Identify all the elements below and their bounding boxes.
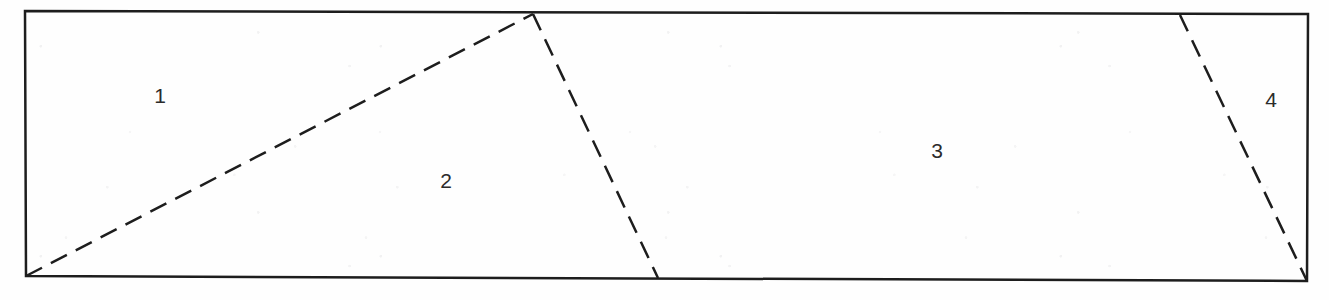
divider-2-3-dashed-line [533,14,658,278]
divider-3-4-dashed-line [1180,15,1307,281]
figure-svg [0,0,1329,300]
diagram-canvas: 1 2 3 4 [0,0,1329,300]
region-label-2: 2 [440,170,452,191]
region-label-4: 4 [1265,89,1277,110]
outer-rectangle-outline [25,11,1308,281]
region-label-1: 1 [154,85,166,106]
divider-1-2-dashed-line [26,14,533,276]
region-label-3: 3 [931,140,943,161]
